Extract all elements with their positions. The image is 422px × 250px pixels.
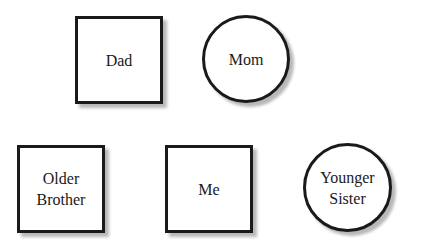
dad-node: Dad [75, 16, 163, 104]
me-label: Me [198, 179, 219, 200]
dad-label: Dad [106, 50, 133, 71]
mom-node: Mom [202, 15, 290, 103]
me-node: Me [165, 145, 253, 233]
younger-sister-label: Younger Sister [320, 167, 374, 209]
older-brother-node: Older Brother [17, 145, 105, 233]
mom-label: Mom [229, 49, 264, 70]
younger-sister-node: Younger Sister [303, 143, 392, 232]
older-brother-label: Older Brother [37, 168, 86, 210]
